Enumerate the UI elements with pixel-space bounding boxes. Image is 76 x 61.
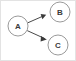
- edge-a-to-c: [27, 31, 47, 42]
- node-b[interactable]: B: [50, 2, 70, 22]
- node-a[interactable]: A: [8, 16, 28, 36]
- edge-a-to-b: [28, 14, 46, 23]
- edge-group: [27, 14, 47, 41]
- node-c[interactable]: C: [48, 35, 68, 55]
- node-group: A B C: [8, 2, 70, 55]
- edge-a-to-c-arrowhead: [41, 36, 47, 42]
- node-a-label: A: [15, 22, 21, 31]
- graph-canvas: A B C: [0, 0, 76, 61]
- graph-figure: A B C: [0, 0, 76, 61]
- node-c-label: C: [55, 41, 61, 50]
- node-b-label: B: [57, 8, 63, 17]
